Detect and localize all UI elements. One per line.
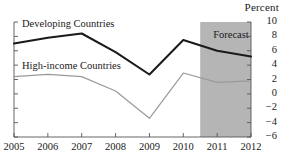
x-tick-label: 2010 — [173, 141, 194, 152]
x-tick-label: 2007 — [71, 141, 92, 152]
forecast-region-label: Forecast — [213, 29, 249, 40]
series-label-developing-countries: Developing Countries — [22, 18, 114, 29]
series-label-high-income-countries: High-income Countries — [22, 60, 121, 71]
y-tick-label: 8 — [255, 29, 277, 40]
y-tick-label: 0 — [255, 87, 277, 98]
y-tick-label: 6 — [255, 44, 277, 55]
y-tick-label: 4 — [255, 58, 277, 69]
x-tick-label: 2011 — [207, 141, 228, 152]
x-tick-label: 2005 — [4, 141, 25, 152]
y-tick-label: −6 — [255, 130, 277, 141]
x-tick-label: 2008 — [105, 141, 126, 152]
y-tick-label: −4 — [255, 116, 277, 127]
y-tick-label: 10 — [255, 15, 277, 26]
chart-container: Percent 1086420−2−4−6 200520062007200820… — [0, 0, 285, 160]
x-tick-label: 2009 — [139, 141, 160, 152]
y-tick-label: 2 — [255, 73, 277, 84]
x-tick-label: 2006 — [37, 141, 58, 152]
x-tick-label: 2012 — [241, 141, 262, 152]
y-tick-label: −2 — [255, 101, 277, 112]
